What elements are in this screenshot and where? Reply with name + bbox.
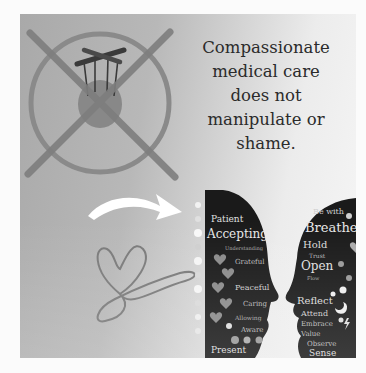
word-understanding: Understanding [225, 245, 264, 252]
two-heads-illustration: Patient Accepting Understanding Grateful… [205, 190, 356, 358]
word-reflect: Reflect [297, 295, 333, 306]
message-line-5: shame. [180, 132, 352, 156]
dot-column-decoration [192, 199, 206, 339]
word-open: Open [301, 259, 334, 273]
poster-panel: Compassionate medical care does not mani… [20, 14, 356, 358]
word-peaceful: Peaceful [235, 283, 270, 292]
word-be-with: Be with [313, 207, 344, 216]
word-value: Value [300, 330, 320, 338]
word-patient: Patient [211, 214, 244, 224]
word-grateful: Grateful [235, 258, 265, 266]
word-hold: Hold [303, 239, 328, 250]
word-allowing: Allowing [234, 314, 262, 322]
word-breathe: Breathe [305, 220, 356, 235]
word-aware: Aware [240, 326, 263, 334]
word-caring: Caring [243, 300, 268, 308]
word-present: Present [211, 345, 246, 355]
word-trust: Trust [309, 252, 326, 259]
word-sense: Sense [309, 348, 336, 358]
no-manipulation-sign-icon [20, 14, 200, 194]
word-attend: Attend [300, 309, 328, 318]
message-line-1: Compassionate [180, 36, 352, 60]
message-line-2: medical care [180, 60, 352, 84]
message-line-4: manipulate or [180, 108, 352, 132]
heart-infinity-icon [75, 229, 205, 339]
word-accepting: Accepting [206, 227, 268, 241]
compassion-message: Compassionate medical care does not mani… [180, 36, 352, 156]
curved-arrow-icon [86, 184, 186, 234]
word-embrace: Embrace [301, 320, 333, 328]
message-line-3: does not [180, 84, 352, 108]
word-flow: Flow [307, 275, 320, 281]
word-observe: Observe [307, 340, 336, 348]
